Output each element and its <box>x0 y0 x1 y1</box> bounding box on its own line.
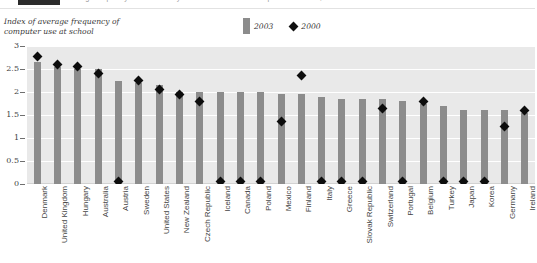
y-axis-tick-label: 2.5 <box>1 65 19 73</box>
x-axis-label: Australia <box>101 186 110 217</box>
x-axis-label: Finland <box>304 186 313 212</box>
bar <box>257 92 264 184</box>
x-axis-label: Korea <box>487 186 496 207</box>
bar <box>135 83 142 184</box>
x-axis-label: Switzerland <box>386 186 395 227</box>
bar <box>217 92 224 184</box>
x-axis-label: Iceland <box>223 186 232 212</box>
marker-diamond <box>296 71 306 81</box>
bar <box>420 104 427 185</box>
y-axis: 00.511.522.53 <box>0 46 27 184</box>
plot-frame <box>27 46 535 184</box>
marker-diamond <box>32 51 42 61</box>
x-axis-label: Belgium <box>426 186 435 215</box>
x-axis-label: Turkey <box>447 186 456 210</box>
x-axis-label: New Zealand <box>182 186 191 233</box>
legend-label: 2003 <box>254 22 273 31</box>
gridline <box>27 92 535 93</box>
figure-caption: Average frequency with which 15-year-old… <box>66 0 526 2</box>
bar <box>318 97 325 184</box>
bar <box>399 101 406 184</box>
x-axis-label: Ireland <box>528 186 537 210</box>
y-axis-tick-label: 2 <box>1 88 19 96</box>
x-axis-label: Greece <box>345 186 354 212</box>
bar <box>54 67 61 184</box>
y-axis-tick <box>20 115 25 116</box>
x-axis-label: Portugal <box>406 186 415 216</box>
y-axis-tick <box>20 69 25 70</box>
y-axis-tick-label: 1.5 <box>1 111 19 119</box>
bar <box>237 92 244 184</box>
bar <box>34 62 41 184</box>
bar <box>359 99 366 184</box>
y-axis-tick-label: 3 <box>1 42 19 50</box>
x-axis-label: Mexico <box>284 186 293 211</box>
y-axis-tick-label: 1 <box>1 134 19 142</box>
bar <box>521 113 528 184</box>
y-axis-tick <box>20 161 25 162</box>
x-axis-label: Denmark <box>40 186 49 218</box>
legend-bar-swatch-icon <box>243 18 250 34</box>
x-axis-label: Canada <box>243 186 252 214</box>
x-axis-label: Poland <box>264 186 273 211</box>
bar <box>278 94 285 184</box>
y-axis-tick-label: 0 <box>1 180 19 188</box>
legend-entry-2000: 2000 <box>290 22 320 31</box>
x-axis-label: Hungary <box>81 186 90 216</box>
y-axis-tick <box>20 92 25 93</box>
gridline <box>27 46 535 47</box>
x-axis-label: Italy <box>325 186 334 201</box>
y-axis-tick-label: 0.5 <box>1 157 19 165</box>
bar <box>338 99 345 184</box>
x-axis-label: Sweden <box>142 186 151 215</box>
figure-number-badge <box>18 0 60 5</box>
x-axis-label: Germany <box>508 186 517 219</box>
x-axis-label: Slovak Republic <box>365 186 374 243</box>
bar <box>176 92 183 184</box>
plot-area <box>27 46 535 184</box>
bar <box>74 69 81 184</box>
x-axis-label: United States <box>162 186 171 234</box>
y-axis-tick <box>20 138 25 139</box>
bar <box>440 106 447 184</box>
x-axis-label: Japan <box>467 186 476 208</box>
x-axis-label: United Kingdom <box>60 186 69 243</box>
chart-legend: 20032000 <box>243 17 321 35</box>
gridline <box>27 69 535 70</box>
legend-label: 2000 <box>301 22 320 31</box>
y-axis-tick <box>20 46 25 47</box>
y-axis-title: Index of average frequency of computer u… <box>4 17 154 37</box>
bar <box>95 69 102 184</box>
bar <box>115 81 122 185</box>
bar <box>460 110 467 184</box>
legend-entry-2003: 2003 <box>243 18 273 34</box>
y-axis-tick <box>20 184 25 185</box>
x-axis-label: Czech Republic <box>203 186 212 242</box>
bar <box>481 110 488 184</box>
header-divider <box>0 8 535 9</box>
bar <box>156 85 163 184</box>
x-axis-labels: DenmarkUnited KingdomHungaryAustraliaAus… <box>27 186 535 263</box>
bar <box>298 94 305 184</box>
legend-diamond-swatch-icon <box>289 21 299 31</box>
x-axis-label: Austria <box>121 186 130 211</box>
